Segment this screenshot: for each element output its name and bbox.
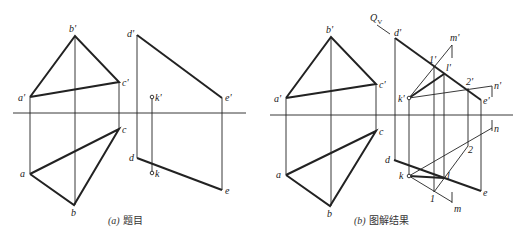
- label-b-prime: b': [326, 25, 333, 35]
- label-n-prime: n': [494, 81, 501, 91]
- point-k: [150, 171, 154, 175]
- label-c-prime: c': [122, 78, 129, 88]
- point-k-prime: [150, 95, 154, 99]
- label-m-prime: m': [450, 33, 459, 43]
- line-de-front: [395, 38, 481, 100]
- label-e: e: [225, 186, 229, 196]
- label-d: d: [385, 155, 390, 165]
- caption-b-letter: (b): [354, 215, 366, 226]
- label-a: a: [276, 170, 281, 180]
- line-de-front: [137, 35, 222, 98]
- label-l: l: [447, 171, 450, 181]
- label-k: k: [155, 169, 159, 179]
- label-k: k: [399, 171, 403, 181]
- plane-trace-qv: [377, 25, 390, 34]
- line-kn-front: [409, 86, 492, 98]
- caption-b-text: 图解结果: [369, 215, 409, 226]
- label-a: a: [20, 169, 25, 179]
- label-d: d: [129, 153, 134, 163]
- label-k-prime: k': [398, 94, 405, 104]
- panel-a-drawing: [13, 35, 246, 205]
- line-de-top: [137, 158, 222, 190]
- triangle-top-view: [30, 129, 119, 205]
- label-a-prime: a': [18, 93, 25, 103]
- line-kn-top: [409, 128, 492, 176]
- line-kl-front: [409, 74, 444, 98]
- label-e-prime: e': [225, 93, 232, 103]
- label-b: b: [327, 209, 332, 219]
- panel-b-drawing: [270, 25, 513, 206]
- caption-b: (b) 图解结果: [354, 216, 409, 226]
- drawing-canvas: [0, 0, 525, 246]
- point-k-prime: [407, 96, 411, 100]
- label-qv-subscript: V: [377, 18, 382, 26]
- point-k: [407, 174, 411, 178]
- label-e-prime: e': [483, 96, 490, 106]
- triangle-front-view: [30, 36, 119, 97]
- label-b: b: [71, 208, 76, 218]
- descriptive-geometry-figure: b' a' c' a b c d' e' d e k' k (a) 题目 b' …: [0, 0, 525, 246]
- label-n: n: [494, 124, 499, 134]
- label-c: c: [122, 125, 126, 135]
- label-k-prime: k': [155, 93, 162, 103]
- label-2: 2: [468, 145, 473, 155]
- label-d-prime: d': [394, 28, 401, 38]
- label-a-prime: a': [274, 94, 281, 104]
- label-d-prime: d': [127, 29, 134, 39]
- label-1-prime: 1': [429, 55, 436, 65]
- caption-a-text: 题目: [123, 215, 143, 226]
- label-e: e: [483, 188, 487, 198]
- label-m: m: [454, 204, 461, 214]
- caption-a: (a) 题目: [108, 216, 143, 226]
- label-b-prime: b': [69, 24, 76, 34]
- label-c-prime: c': [379, 80, 386, 90]
- label-qv: QV: [370, 13, 382, 26]
- label-2-prime: 2': [466, 77, 473, 87]
- label-1: 1: [430, 194, 435, 204]
- label-l-prime: l': [446, 63, 451, 73]
- caption-a-letter: (a): [108, 215, 120, 226]
- label-c: c: [379, 127, 383, 137]
